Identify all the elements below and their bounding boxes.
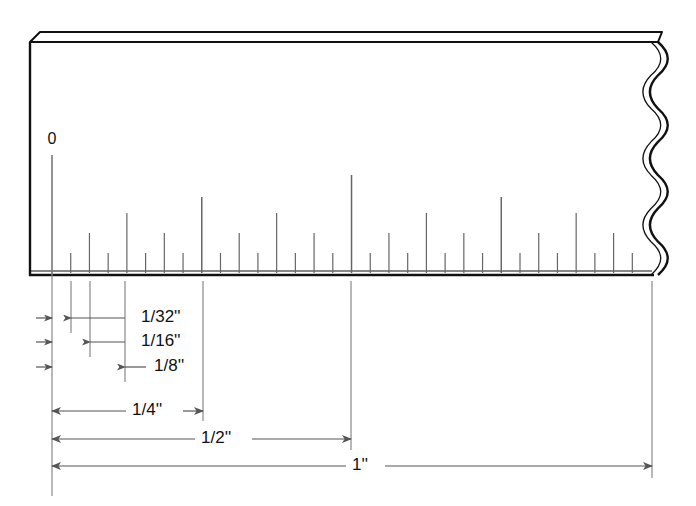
ruler-outline — [30, 42, 654, 275]
diagram-canvas: 0 1/32''1/16''1/8'' 1/4''1/2''1'' — [0, 0, 696, 506]
ruler-tick-group — [71, 175, 633, 273]
dimension-label-half-inch: 1/2'' — [201, 428, 231, 447]
callout-label-sixteenths: 1/16'' — [141, 331, 181, 350]
ruler-bevel-top — [30, 32, 662, 42]
zero-label: 0 — [48, 130, 57, 147]
left-arrow-group — [36, 318, 52, 367]
dimension-group: 1/4''1/2''1'' — [52, 400, 652, 474]
callout-label-thirty-seconds: 1/32'' — [141, 307, 181, 326]
ruler-body — [30, 32, 668, 275]
callout-group: 1/32''1/16''1/8'' — [71, 307, 184, 375]
callout-label-eighths: 1/8'' — [154, 356, 184, 375]
break-edge-outer — [650, 42, 668, 275]
ruler-diagram: 0 1/32''1/16''1/8'' 1/4''1/2''1'' — [0, 0, 696, 506]
dimension-label-one-inch: 1'' — [352, 455, 368, 474]
dimension-label-quarter-inch: 1/4'' — [132, 400, 162, 419]
